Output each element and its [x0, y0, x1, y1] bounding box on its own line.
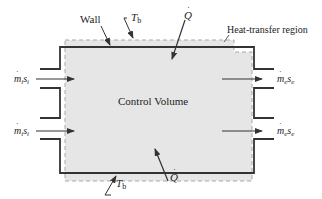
inlet-label-1: misi · — [14, 67, 29, 86]
svg-text:·: · — [16, 67, 19, 76]
control-volume-label: Control Volume — [118, 95, 188, 107]
tb-top-label: Tb — [131, 11, 141, 25]
diagram-canvas: Wall Tb Q · Heat-transfer region Control… — [0, 0, 322, 199]
outlet-label-2: mese · — [277, 119, 294, 138]
control-volume-region — [65, 40, 252, 181]
heat-top-dot: · — [187, 2, 190, 12]
outlet-label-1: mese · — [277, 67, 294, 86]
svg-text:·: · — [279, 67, 282, 76]
heat-bottom-dot: · — [173, 164, 176, 174]
svg-text:·: · — [279, 119, 282, 128]
wall-label: Wall — [80, 13, 101, 25]
heat-transfer-region-label: Heat-transfer region — [227, 24, 308, 35]
control-volume-diagram: Wall Tb Q · Heat-transfer region Control… — [0, 0, 322, 199]
svg-text:·: · — [16, 119, 19, 128]
inlet-label-2: misi · — [14, 119, 29, 138]
